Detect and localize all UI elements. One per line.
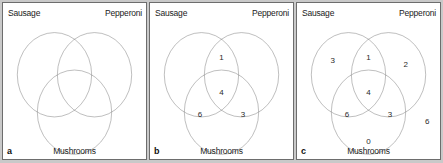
region-count-sausage-pepperoni: 1	[219, 54, 223, 62]
label-sausage: Sausage	[8, 9, 40, 18]
mushrooms-circle	[184, 70, 258, 154]
label-mushrooms: Mushrooms	[200, 147, 243, 156]
region-count-sausage-mushrooms: 6	[345, 111, 349, 119]
region-count-sausage-mushrooms: 6	[198, 111, 202, 119]
region-count-pepperoni-mushrooms: 3	[388, 111, 392, 119]
region-count-all-three: 4	[366, 89, 370, 97]
venn-panel-b: SausagePepperoniMushroomsb1463	[149, 2, 294, 160]
label-sausage: Sausage	[155, 9, 187, 18]
region-count-sausage-pepperoni: 1	[366, 54, 370, 62]
label-mushrooms: Mushrooms	[347, 147, 390, 156]
label-sausage: Sausage	[302, 9, 334, 18]
venn-panel-c: SausagePepperoniMushroomsc31246306	[296, 2, 441, 160]
mushrooms-circle	[37, 70, 111, 154]
label-pepperoni: Pepperoni	[399, 9, 436, 18]
sausage-circle	[164, 33, 238, 117]
venn-circles	[297, 3, 440, 159]
pepperoni-circle	[204, 33, 278, 117]
region-count-pepperoni-mushrooms: 3	[241, 111, 245, 119]
sausage-circle	[17, 33, 91, 117]
venn-figure: SausagePepperoniMushroomsaSausagePeppero…	[0, 0, 443, 163]
venn-panel-a: SausagePepperoniMushroomsa	[2, 2, 147, 160]
pepperoni-circle	[351, 33, 425, 117]
panel-letter-b: b	[154, 147, 160, 156]
region-count-pepperoni-only: 2	[403, 61, 407, 69]
region-count-all-three: 4	[219, 89, 223, 97]
panel-letter-c: c	[301, 147, 306, 156]
sausage-circle	[311, 33, 385, 117]
panel-letter-a: a	[7, 147, 12, 156]
label-pepperoni: Pepperoni	[105, 9, 142, 18]
venn-circles	[3, 3, 146, 159]
region-count-outside-all: 6	[425, 118, 429, 126]
label-pepperoni: Pepperoni	[252, 9, 289, 18]
pepperoni-circle	[57, 33, 131, 117]
region-count-sausage-only: 3	[331, 57, 335, 65]
label-mushrooms: Mushrooms	[53, 147, 96, 156]
venn-circles	[150, 3, 293, 159]
region-count-mushrooms-only: 0	[366, 138, 370, 146]
